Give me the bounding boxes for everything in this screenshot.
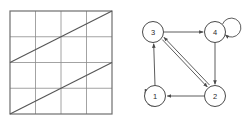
- graph-node-3[interactable]: 3: [143, 22, 164, 43]
- state-graph-svg: 3 4 1 2: [125, 0, 249, 126]
- graph-nodes: 3 4 1 2: [143, 22, 226, 107]
- edge-2-to-3: [164, 37, 210, 85]
- edge-3-to-2: [162, 40, 207, 87]
- graph-node-4[interactable]: 4: [205, 22, 226, 43]
- edge-1-to-3: [154, 44, 155, 86]
- figure-root: 3 4 1 2: [0, 0, 249, 126]
- node-label-3: 3: [151, 28, 155, 37]
- grid-plot-panel: [0, 0, 125, 126]
- state-graph-panel: 3 4 1 2: [125, 0, 249, 126]
- grid-plot-svg: [0, 0, 125, 126]
- graph-node-1[interactable]: 1: [145, 86, 166, 107]
- graph-node-2[interactable]: 2: [205, 86, 226, 107]
- grid-lines: [10, 11, 112, 114]
- node-label-1: 1: [153, 92, 157, 101]
- node-label-4: 4: [213, 28, 217, 37]
- node-label-2: 2: [213, 92, 217, 101]
